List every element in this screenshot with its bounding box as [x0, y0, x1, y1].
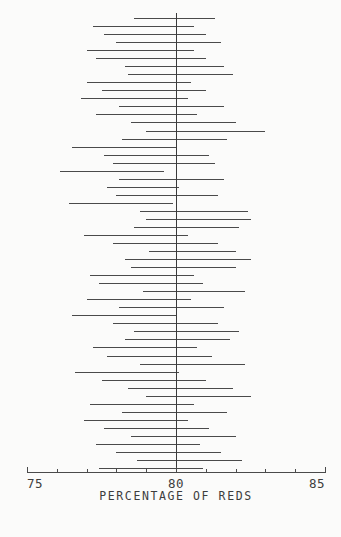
x-axis-title: PERCENTAGE OF REDS	[99, 489, 252, 503]
confidence-interval-plot: 758085 PERCENTAGE OF REDS	[0, 0, 341, 537]
x-axis-ticks	[28, 467, 326, 473]
x-axis-tick-label: 85	[309, 476, 325, 491]
plot-canvas: 758085 PERCENTAGE OF REDS	[0, 0, 341, 537]
confidence-interval-lines	[60, 19, 266, 469]
x-axis-tick-label: 75	[27, 476, 43, 491]
